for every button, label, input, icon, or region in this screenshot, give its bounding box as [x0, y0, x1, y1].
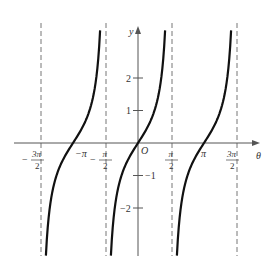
x-tick-numerator: 3π — [226, 149, 237, 159]
y-tick-label: 2 — [126, 73, 131, 84]
x-tick-numerator: 3π — [31, 149, 42, 159]
y-tick-label: −2 — [120, 203, 131, 214]
x-tick-denominator: 2 — [230, 161, 235, 171]
x-tick-labels: −3π2−π−π2π2π3π2 — [22, 148, 239, 171]
x-tick-sign: − — [90, 154, 96, 165]
theta-axis-arrow-icon — [252, 140, 260, 146]
x-tick-numerator: π — [169, 149, 174, 159]
x-axis-label: θ — [256, 150, 261, 161]
x-tick-denominator: 2 — [35, 161, 40, 171]
y-axis-arrow-icon — [135, 26, 141, 34]
x-tick-sign: − — [22, 154, 28, 165]
origin-label: O — [141, 145, 148, 156]
y-axis-label: y — [128, 26, 134, 37]
y-tick-label: −1 — [145, 170, 156, 181]
x-tick-numerator: π — [103, 149, 108, 159]
x-tick-label: −π — [75, 148, 88, 159]
x-tick-denominator: 2 — [103, 161, 108, 171]
y-tick-label: 1 — [126, 105, 131, 116]
axes — [14, 26, 260, 256]
x-tick-denominator: 2 — [169, 161, 174, 171]
x-tick-label: π — [201, 148, 207, 159]
tangent-chart: 21−1−2 −3π2−π−π2π2π3π2 y θ O — [0, 0, 276, 268]
